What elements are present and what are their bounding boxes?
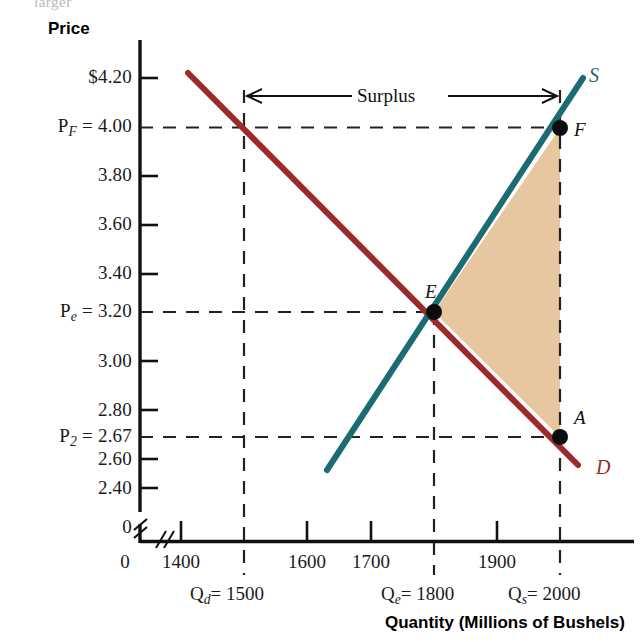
point-label-f: F [574, 119, 586, 141]
point-label-e: E [425, 281, 437, 303]
point-marker-f [552, 120, 568, 136]
p2-subscript: 2 [70, 434, 77, 449]
x-tick-label-1400: 1400 [151, 551, 211, 573]
y-tick-label-240: 2.40 [40, 477, 132, 499]
surplus-annotation-label: Surplus [357, 85, 415, 107]
quantity-marker-qd: Qd= 1500 [190, 583, 264, 608]
y-tick-label-p2: P2 = 2.67 [6, 425, 132, 450]
qd-symbol: Q [190, 583, 204, 604]
x-tick-label-1700: 1700 [341, 551, 401, 573]
x-tick-label-1900: 1900 [467, 551, 527, 573]
qe-symbol: Q [381, 583, 395, 604]
y-tick-label-340: 3.40 [40, 262, 132, 284]
y-tick-label-260: 2.60 [40, 448, 132, 470]
pf-symbol: P [58, 115, 69, 136]
qs-value: = 2000 [527, 583, 580, 604]
qd-value: = 1500 [211, 583, 264, 604]
point-marker-e [426, 304, 442, 320]
x-axis-origin-label: 0 [105, 551, 145, 573]
x-tick-marks [181, 521, 497, 541]
pf-subscript: F [69, 124, 78, 139]
point-marker-a [552, 429, 568, 445]
x-axis-title: Quantity (Millions of Bushels) [385, 613, 625, 633]
y-tick-label-420: $4.20 [40, 66, 132, 88]
qs-symbol: Q [508, 583, 522, 604]
y-axis-title: Price [48, 19, 90, 39]
y-tick-label-pe: Pe = 3.20 [6, 300, 132, 325]
pf-value: = 4.00 [82, 115, 132, 136]
supply-demand-chart: larger [0, 0, 642, 642]
point-label-a: A [574, 407, 586, 429]
y-tick-marks [140, 78, 158, 488]
p2-value: = 2.67 [82, 425, 132, 446]
y-tick-label-pf: PF = 4.00 [6, 115, 132, 140]
quantity-marker-qs: Qs= 2000 [508, 583, 581, 608]
y-tick-label-280: 2.80 [40, 399, 132, 421]
quantity-marker-qe: Qe= 1800 [381, 583, 454, 608]
x-axis-break-icon [156, 531, 174, 548]
y-tick-label-300: 3.00 [40, 350, 132, 372]
y-tick-label-380: 3.80 [40, 164, 132, 186]
x-tick-label-1600: 1600 [277, 551, 337, 573]
qe-value: = 1800 [401, 583, 454, 604]
qd-subscript: d [204, 592, 211, 607]
y-axis-origin-label: 0 [84, 516, 132, 538]
pe-value: = 3.20 [82, 300, 132, 321]
pe-symbol: P [60, 300, 71, 321]
y-tick-label-360: 3.60 [40, 213, 132, 235]
supply-curve-label: S [589, 64, 599, 87]
pe-subscript: e [71, 309, 77, 324]
demand-curve-label: D [596, 456, 610, 479]
p2-symbol: P [59, 425, 70, 446]
